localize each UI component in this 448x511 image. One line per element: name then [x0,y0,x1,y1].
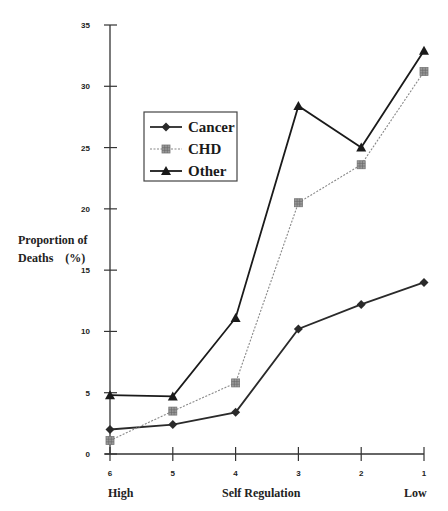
legend-label: CHD [188,141,222,157]
y-axis-title: Proportion of Deaths (%) [18,233,88,265]
y-tick-label: 5 [86,389,91,398]
legend: CancerCHDOther [144,112,237,181]
y-tick-label: 10 [81,327,90,336]
y-tick-label: 25 [81,144,90,153]
y-tick-label: 20 [81,205,90,214]
series-cancer [106,278,429,434]
triangle-marker [419,46,429,55]
square-marker [169,407,177,415]
y-tick-label: 0 [86,450,91,459]
square-marker [232,379,240,387]
legend-label: Other [188,163,227,179]
x-tick-label: 3 [296,469,301,478]
square-marker [357,161,365,169]
series-line [110,282,424,429]
x-ticks: 654321 [108,447,427,478]
y-axis-title-line1: Proportion of [18,233,88,247]
legend-square-icon [162,145,170,153]
x-axis-label-high: High [108,486,134,500]
y-axis-title-line2: Deaths (%) [18,251,85,265]
axes [105,25,424,454]
diamond-marker [168,420,177,429]
y-tick-label: 30 [81,82,90,91]
line-chart: 05101520253035 654321 Proportion of Deat… [0,0,448,511]
x-tick-label: 4 [233,469,238,478]
diamond-marker [420,278,429,287]
series-layer [105,46,429,445]
triangle-marker [293,101,303,110]
x-axis-title: Self Regulation [222,486,301,500]
triangle-marker [231,313,241,322]
triangle-marker [356,143,366,152]
diamond-marker [357,300,366,309]
series-line [110,51,424,397]
square-marker [294,199,302,207]
y-tick-label: 35 [81,21,90,30]
y-tick-label: 15 [81,266,90,275]
x-tick-label: 5 [171,469,176,478]
square-marker [420,68,428,76]
series-other [105,46,429,401]
x-tick-label: 2 [359,469,364,478]
x-axis-label-low: Low [404,486,427,500]
x-tick-label: 1 [422,469,427,478]
diamond-marker [106,425,115,434]
legend-label: Cancer [188,119,235,135]
x-tick-label: 6 [108,469,113,478]
square-marker [106,437,114,445]
